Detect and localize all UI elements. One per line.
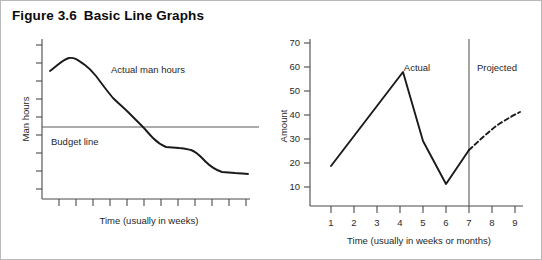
- y-tick-label-30: 30: [289, 133, 300, 144]
- y-axis-title: Man hours: [20, 96, 31, 141]
- x-tick-label-7: 7: [466, 217, 471, 228]
- man-hours-svg: Actual man hours Budget line Man hours T…: [7, 31, 269, 256]
- x-tick-label-1: 1: [328, 217, 333, 228]
- y-tick-label-50: 50: [289, 85, 300, 96]
- chart-man-hours: Actual man hours Budget line Man hours T…: [7, 31, 269, 256]
- y-tick-label-20: 20: [289, 157, 300, 168]
- chart-amount: 70 60 50 40 30 20 10 1 2 3 4 5: [267, 31, 539, 256]
- x-tick-label-6: 6: [443, 217, 448, 228]
- figure-container: Figure 3.6Basic Line Graphs: [0, 0, 542, 260]
- x-tick-group: [331, 206, 515, 213]
- y-tick-label-60: 60: [289, 61, 300, 72]
- y-tick-label-10: 10: [289, 181, 300, 192]
- x-tick-label-3: 3: [374, 217, 379, 228]
- x-tick-label-9: 9: [512, 217, 517, 228]
- figure-title-text: Basic Line Graphs: [84, 8, 204, 23]
- y-tick-group: [304, 43, 310, 187]
- x-axis-title: Time (usually in weeks): [100, 215, 199, 226]
- x-tick-group: [59, 199, 246, 206]
- x-tick-label-4: 4: [397, 217, 402, 228]
- annotation-budget-line: Budget line: [51, 136, 99, 147]
- annotation-actual: Actual: [404, 62, 430, 73]
- x-tick-label-5: 5: [420, 217, 425, 228]
- annotation-actual-man-hours: Actual man hours: [111, 64, 185, 75]
- actual-series-line: [331, 72, 469, 184]
- actual-man-hours-curve: [50, 58, 248, 174]
- amount-svg: 70 60 50 40 30 20 10 1 2 3 4 5: [267, 31, 539, 256]
- y-tick-label-70: 70: [289, 37, 300, 48]
- projected-series-line: [469, 112, 520, 150]
- figure-number: Figure 3.6: [12, 8, 77, 23]
- figure-title: Figure 3.6Basic Line Graphs: [12, 8, 204, 23]
- y-tick-label-40: 40: [289, 109, 300, 120]
- x-axis-title: Time (usually in weeks or months): [347, 235, 491, 246]
- x-tick-label-2: 2: [351, 217, 356, 228]
- y-axis-title: Amount: [278, 109, 289, 142]
- y-tick-group: [36, 45, 42, 189]
- annotation-projected: Projected: [477, 62, 517, 73]
- x-tick-label-8: 8: [489, 217, 494, 228]
